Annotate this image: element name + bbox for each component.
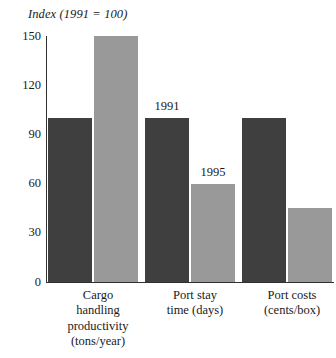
y-tick-150: 150	[2, 30, 46, 42]
bar-group-port-costs	[242, 36, 334, 282]
y-tick-120: 120	[2, 79, 46, 91]
series-label-1995: 1995	[190, 166, 236, 179]
y-tick-60: 60	[2, 177, 46, 189]
bar-1991-port-costs[interactable]	[242, 118, 286, 282]
bar-group-cargo-handling-productivity	[48, 36, 140, 282]
y-tick-30: 30	[2, 226, 46, 238]
bar-1991-cargo-handling-productivity[interactable]	[48, 118, 92, 282]
x-axis-line	[46, 282, 334, 283]
bar-1995-cargo-handling-productivity[interactable]	[94, 36, 138, 282]
bar-group-port-stay-time	[145, 36, 237, 282]
bar-1995-port-stay-time[interactable]	[191, 184, 235, 282]
plot-area	[46, 36, 334, 282]
series-label-1991: 1991	[144, 100, 190, 113]
y-tick-0: 0	[2, 276, 46, 288]
bar-1995-port-costs[interactable]	[288, 208, 332, 282]
y-tick-90: 90	[2, 128, 46, 140]
bar-chart: Index (1991 = 100) 150 120 90 60 30 0 19…	[0, 0, 336, 358]
bar-1991-port-stay-time[interactable]	[145, 118, 189, 282]
category-label-port-costs: Port costs (cents/box)	[230, 288, 336, 319]
